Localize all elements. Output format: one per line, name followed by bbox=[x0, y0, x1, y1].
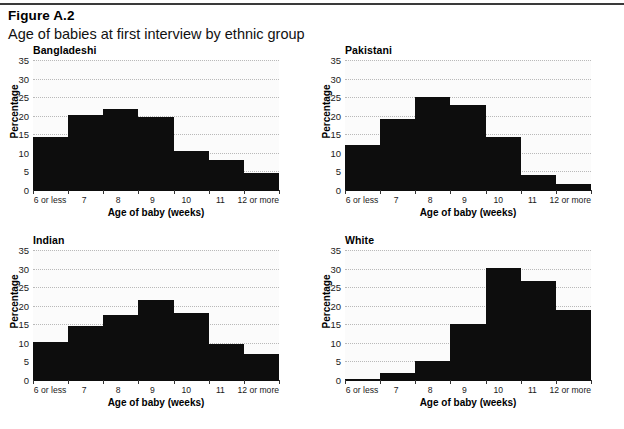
panel-grid: BangladeshiPercentage051015202530356 or … bbox=[0, 44, 624, 429]
y-tick-label: 15 bbox=[330, 129, 341, 140]
panel-title: White bbox=[345, 234, 374, 246]
y-tick-label: 25 bbox=[330, 282, 341, 293]
figure-number: Figure A.2 bbox=[8, 8, 608, 24]
y-tick-label: 35 bbox=[18, 245, 29, 256]
y-tick-label: 35 bbox=[18, 55, 29, 66]
x-tick-label: 7 bbox=[379, 385, 413, 395]
bar bbox=[68, 115, 103, 190]
bar bbox=[138, 300, 173, 380]
chart-panel-white: WhitePercentage051015202530356 or less78… bbox=[312, 234, 624, 426]
chart-panel-pakistani: PakistaniPercentage051015202530356 or le… bbox=[312, 44, 624, 236]
bar bbox=[521, 175, 556, 190]
y-tick-label: 30 bbox=[18, 263, 29, 274]
x-tick-label: 6 or less bbox=[33, 195, 67, 205]
bar bbox=[521, 281, 556, 380]
panel-title: Bangladeshi bbox=[33, 44, 97, 56]
x-tick bbox=[279, 380, 280, 384]
y-tick-label: 10 bbox=[18, 337, 29, 348]
x-tick bbox=[68, 190, 69, 194]
x-tick bbox=[345, 190, 346, 194]
bar bbox=[103, 315, 138, 380]
x-axis-label: Age of baby (weeks) bbox=[345, 397, 591, 408]
bar bbox=[244, 354, 279, 380]
y-tick-label: 10 bbox=[330, 337, 341, 348]
x-tick-label: 7 bbox=[67, 195, 101, 205]
x-axis bbox=[345, 190, 591, 191]
y-tick-label: 30 bbox=[330, 73, 341, 84]
bar bbox=[174, 313, 209, 380]
x-tick bbox=[138, 380, 139, 384]
x-tick bbox=[209, 380, 210, 384]
x-tick bbox=[486, 190, 487, 194]
y-tick-label: 5 bbox=[336, 166, 341, 177]
x-tick-label: 8 bbox=[101, 385, 135, 395]
x-tick-label: 11 bbox=[203, 195, 237, 205]
x-tick-label: 6 or less bbox=[33, 385, 67, 395]
x-tick-label: 10 bbox=[481, 385, 515, 395]
x-tick-labels: 6 or less789101112 or more bbox=[345, 195, 591, 205]
y-tick-label: 30 bbox=[18, 73, 29, 84]
x-tick-label: 9 bbox=[135, 385, 169, 395]
y-tick-label: 0 bbox=[336, 185, 341, 196]
y-tick-label: 0 bbox=[336, 375, 341, 386]
y-tick-label: 20 bbox=[18, 110, 29, 121]
x-tick-label: 8 bbox=[101, 195, 135, 205]
x-tick-label: 11 bbox=[515, 195, 549, 205]
x-tick-label: 10 bbox=[169, 385, 203, 395]
bar bbox=[244, 173, 279, 190]
x-tick bbox=[209, 190, 210, 194]
y-tick-label: 35 bbox=[330, 245, 341, 256]
x-tick bbox=[68, 380, 69, 384]
bar bbox=[345, 145, 380, 190]
x-tick bbox=[279, 190, 280, 194]
y-tick-label: 15 bbox=[330, 319, 341, 330]
x-axis-label: Age of baby (weeks) bbox=[345, 207, 591, 218]
x-tick bbox=[415, 190, 416, 194]
y-tick-label: 30 bbox=[330, 263, 341, 274]
y-tick-label: 25 bbox=[330, 92, 341, 103]
x-tick-label: 10 bbox=[481, 195, 515, 205]
x-tick bbox=[244, 380, 245, 384]
x-tick-label: 10 bbox=[169, 195, 203, 205]
bar bbox=[380, 373, 415, 380]
x-axis-label: Age of baby (weeks) bbox=[33, 207, 279, 218]
x-tick bbox=[33, 190, 34, 194]
top-rule bbox=[0, 3, 624, 5]
x-tick-label: 9 bbox=[447, 195, 481, 205]
x-tick-label: 12 or more bbox=[549, 385, 591, 395]
x-tick bbox=[591, 190, 592, 194]
bar-series bbox=[33, 60, 279, 190]
x-tick-label: 8 bbox=[413, 195, 447, 205]
y-tick-label: 15 bbox=[18, 129, 29, 140]
x-tick bbox=[174, 190, 175, 194]
bar bbox=[415, 361, 450, 380]
plot-area: 05101520253035 bbox=[33, 60, 279, 190]
bar bbox=[450, 324, 485, 380]
plot-area: 05101520253035 bbox=[345, 60, 591, 190]
bar bbox=[174, 151, 209, 190]
y-tick-label: 35 bbox=[330, 55, 341, 66]
y-tick-label: 0 bbox=[24, 375, 29, 386]
x-tick bbox=[556, 190, 557, 194]
bar bbox=[209, 160, 244, 190]
bar bbox=[556, 310, 591, 380]
bar bbox=[486, 137, 521, 190]
x-tick bbox=[521, 380, 522, 384]
bar bbox=[415, 97, 450, 190]
y-tick-label: 20 bbox=[330, 300, 341, 311]
bar bbox=[68, 326, 103, 380]
x-tick-label: 12 or more bbox=[549, 195, 591, 205]
bar bbox=[138, 117, 173, 190]
x-tick-label: 6 or less bbox=[345, 385, 379, 395]
y-tick-label: 20 bbox=[18, 300, 29, 311]
bar-series bbox=[345, 60, 591, 190]
chart-panel-indian: IndianPercentage051015202530356 or less7… bbox=[0, 234, 312, 426]
x-tick-label: 9 bbox=[447, 385, 481, 395]
bar-series bbox=[33, 250, 279, 380]
x-tick-label: 7 bbox=[379, 195, 413, 205]
figure-header: Figure A.2 Age of babies at first interv… bbox=[8, 8, 608, 43]
y-tick-label: 20 bbox=[330, 110, 341, 121]
y-tick-label: 5 bbox=[336, 356, 341, 367]
x-tick-label: 7 bbox=[67, 385, 101, 395]
x-tick bbox=[591, 380, 592, 384]
